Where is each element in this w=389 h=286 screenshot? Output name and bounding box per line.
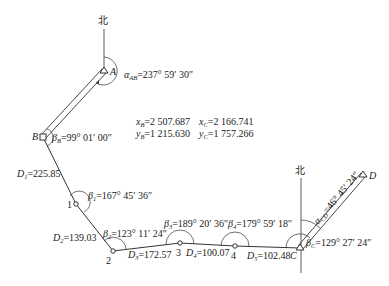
azimuth-ab-label: αAB=237° 59′ 30″: [124, 69, 193, 81]
traverse-diagram: 北 北 A B 1 2 3 4 C D αAB=237° 59′ 30″: [0, 0, 389, 286]
coord-xb: xB=2 507.687: [135, 116, 190, 128]
angle-label-4: β4=179° 59′ 18″: [227, 218, 292, 230]
distance-label-d3: D3=172.57: [127, 249, 172, 261]
angle-label-1: β1=167° 45′ 36″: [87, 190, 152, 202]
azimuth-cd-label: αCD=46° 45′ 24″: [311, 169, 362, 227]
point-label-2: 2: [106, 255, 111, 266]
known-side-ab: [41, 69, 106, 139]
distance-label-d4: D4=100.07: [185, 247, 230, 259]
north-arrow-a: 北: [98, 15, 108, 71]
coord-yb: yB=1 215.630: [135, 128, 190, 140]
point-label-a: A: [109, 66, 117, 77]
square-marker-b: [40, 134, 46, 140]
point-label-b: B: [32, 131, 38, 142]
north-label-c: 北: [295, 165, 305, 176]
triangle-marker-c: [296, 244, 304, 250]
angle-label-3: β3=189° 20′ 36″: [163, 218, 228, 230]
point-label-3: 3: [176, 247, 181, 258]
point-label-1: 1: [67, 199, 72, 210]
circle-marker-3: [178, 241, 182, 245]
angle-label-b: βB=99° 01′ 00″: [51, 132, 112, 144]
point-label-c: C: [290, 250, 297, 261]
coord-yc: yC=1 757.266: [198, 128, 253, 140]
distance-label-d5: D5=102.48: [246, 250, 291, 262]
north-label-a: 北: [98, 15, 108, 26]
circle-marker-4: [233, 244, 237, 248]
point-label-d: D: [368, 170, 377, 181]
coord-xc: xC=2 166.741: [198, 116, 253, 128]
distance-label-d1: D1=225.85: [16, 168, 61, 180]
angle-label-2: β2=123° 11′ 24″: [102, 228, 167, 240]
circle-marker-2: [111, 249, 115, 253]
angle-label-c: βC=129° 27′ 24″: [305, 237, 371, 249]
circle-marker-1: [74, 202, 78, 206]
distance-label-d2: D2=139.03: [52, 232, 97, 244]
point-label-4: 4: [231, 250, 236, 261]
